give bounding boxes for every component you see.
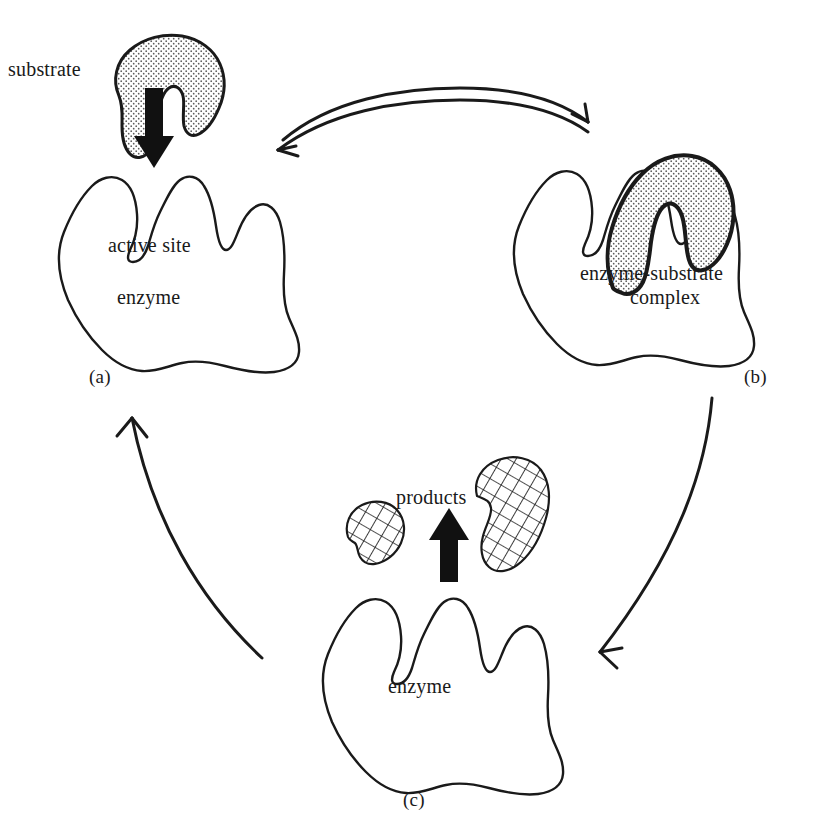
product-fragment-right: [476, 457, 549, 571]
panel-caption-c: (c): [403, 789, 425, 811]
panel-a-enzyme-shape: [59, 177, 299, 373]
enzyme-label-a: enzyme: [117, 286, 180, 309]
panel-caption-a: (a): [89, 366, 111, 388]
product-release-arrow-icon: [429, 508, 469, 582]
diagram-canvas: [0, 0, 822, 824]
product-fragment-left: [347, 502, 404, 565]
enzyme-cycle-diagram: substrate active site enzyme (a) enzyme-…: [0, 0, 822, 824]
enzyme-substrate-complex-label-line1: enzyme-substrate: [580, 262, 723, 285]
enzyme-recycle-arrow-icon: [117, 418, 262, 658]
reversible-binding-arrow-icon: [278, 88, 588, 156]
substrate-label: substrate: [8, 58, 81, 81]
enzyme-substrate-complex-label-line2: complex: [630, 286, 700, 309]
enzyme-label-c: enzyme: [388, 675, 451, 698]
active-site-label: active site: [108, 234, 191, 257]
panel-caption-b: (b): [744, 366, 767, 388]
products-label: products: [396, 486, 466, 509]
catalysis-arrow-icon: [600, 398, 712, 668]
